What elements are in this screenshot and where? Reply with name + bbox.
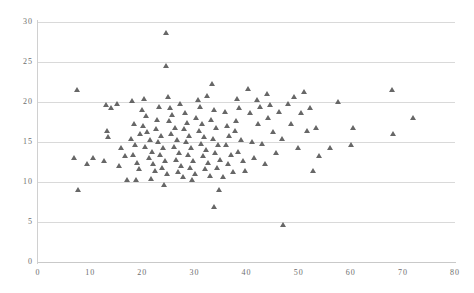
x-tick-label-50: 50	[284, 269, 314, 277]
x-tick-label-70: 70	[388, 269, 418, 277]
x-tick-label-20: 20	[127, 269, 157, 277]
scatter-chart: 051015202530 01020304050607080	[0, 0, 474, 293]
x-tick-label-30: 30	[179, 269, 209, 277]
x-axis-tick-labels: 01020304050607080	[0, 0, 474, 293]
x-tick-label-60: 60	[336, 269, 366, 277]
x-tick-label-10: 10	[75, 269, 105, 277]
x-tick-label-0: 0	[23, 269, 53, 277]
x-tick-label-80: 80	[440, 269, 470, 277]
x-tick-label-40: 40	[232, 269, 262, 277]
